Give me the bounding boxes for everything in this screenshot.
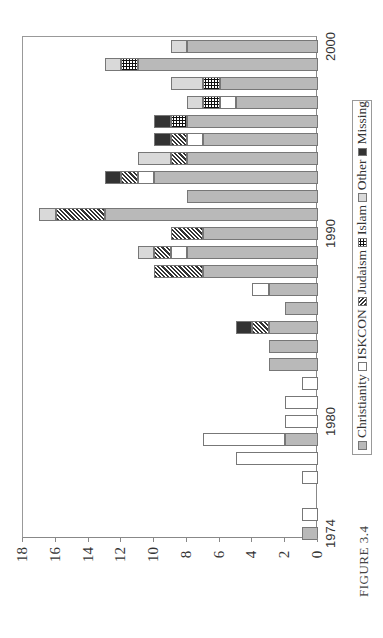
segment-islam [203, 77, 219, 90]
value-tick [251, 538, 252, 542]
segment-christianity [203, 227, 318, 240]
segment-iskcon [302, 377, 318, 390]
segment-other [138, 152, 171, 165]
segment-christianity [138, 58, 318, 71]
legend: ChristianityISKCONJudaismIslamOtherMissi… [352, 100, 372, 455]
value-tick-label: 4 [243, 543, 260, 567]
legend-swatch-iskcon [358, 362, 367, 371]
segment-iskcon [285, 396, 318, 409]
year-tick-label: 2000 [323, 32, 338, 61]
segment-judaism [252, 321, 268, 334]
segment-missing [154, 115, 170, 128]
year-tick-label: 1980 [323, 407, 338, 436]
segment-christianity [187, 115, 318, 128]
value-tick [219, 538, 220, 542]
bar-1981 [285, 396, 318, 409]
plot-area [22, 36, 317, 538]
bar-1992 [187, 190, 318, 203]
segment-christianity [269, 321, 318, 334]
segment-christianity [269, 340, 318, 353]
bar-1975 [302, 508, 318, 521]
segment-iskcon [138, 171, 154, 184]
segment-other [171, 77, 204, 90]
bar-1977 [302, 471, 318, 484]
segment-christianity [203, 133, 318, 146]
segment-iskcon [220, 96, 236, 109]
legend-items: ChristianityISKCONJudaismIslamOtherMissi… [353, 101, 371, 454]
segment-iskcon [252, 283, 268, 296]
bar-1996 [154, 115, 318, 128]
value-tick [88, 538, 89, 542]
segment-judaism [121, 171, 137, 184]
segment-iskcon [203, 433, 285, 446]
segment-islam [121, 58, 137, 71]
bar-1990 [171, 227, 319, 240]
year-tick-label: 1990 [323, 219, 338, 248]
value-tick [22, 538, 23, 542]
segment-christianity [105, 208, 318, 221]
legend-swatch-other [358, 193, 367, 202]
segment-christianity [203, 265, 318, 278]
bar-1994 [138, 152, 318, 165]
value-tick-label: 6 [210, 543, 227, 567]
segment-christianity [285, 302, 318, 315]
segment-christianity [154, 171, 318, 184]
segment-judaism [154, 265, 203, 278]
bar-1983 [269, 358, 318, 371]
legend-label-judaism: Judaism [354, 250, 370, 294]
legend-swatch-christianity [358, 441, 367, 450]
bar-1997 [187, 96, 318, 109]
value-tick-label: 10 [145, 543, 162, 567]
legend-label-christianity: Christianity [354, 374, 370, 438]
figure-caption: FIGURE 3.4 [356, 526, 372, 597]
segment-christianity [187, 190, 318, 203]
segment-christianity [269, 358, 318, 371]
bar-1998 [171, 77, 319, 90]
bar-1974 [302, 527, 318, 540]
legend-swatch-islam [358, 238, 367, 247]
legend-swatch-missing [358, 148, 367, 157]
segment-missing [236, 321, 252, 334]
segment-christianity [220, 77, 318, 90]
segment-christianity [302, 527, 318, 540]
bar-1985 [236, 321, 318, 334]
segment-judaism [171, 133, 187, 146]
bar-1980 [285, 415, 318, 428]
segment-other [105, 58, 121, 71]
legend-label-iskcon: ISKCON [354, 309, 370, 359]
segment-missing [105, 171, 121, 184]
segment-other [39, 208, 55, 221]
bar-1991 [39, 208, 318, 221]
bar-1993 [105, 171, 318, 184]
bar-1986 [285, 302, 318, 315]
value-tick-label: 14 [79, 543, 96, 567]
value-tick-label: 12 [112, 543, 129, 567]
segment-christianity [269, 283, 318, 296]
value-tick [55, 538, 56, 542]
bar-1979 [203, 433, 318, 446]
bar-1999 [105, 58, 318, 71]
segment-judaism [56, 208, 105, 221]
bar-1987 [252, 283, 318, 296]
segment-iskcon [171, 246, 187, 259]
segment-other [187, 96, 203, 109]
segment-christianity [187, 152, 318, 165]
value-tick [120, 538, 121, 542]
segment-iskcon [187, 133, 203, 146]
value-tick-label: 18 [14, 543, 31, 567]
segment-iskcon [236, 452, 318, 465]
segment-iskcon [285, 415, 318, 428]
value-tick [284, 538, 285, 542]
year-tick-label: 1974 [323, 519, 338, 548]
segment-other [171, 40, 187, 53]
value-tick [317, 538, 318, 542]
bar-1989 [138, 246, 318, 259]
bar-2000 [171, 40, 319, 53]
legend-label-islam: Islam [354, 205, 370, 235]
segment-judaism [171, 227, 204, 240]
bar-1984 [269, 340, 318, 353]
bar-1978 [236, 452, 318, 465]
segment-christianity [187, 40, 318, 53]
segment-judaism [154, 246, 170, 259]
legend-swatch-judaism [358, 297, 367, 306]
